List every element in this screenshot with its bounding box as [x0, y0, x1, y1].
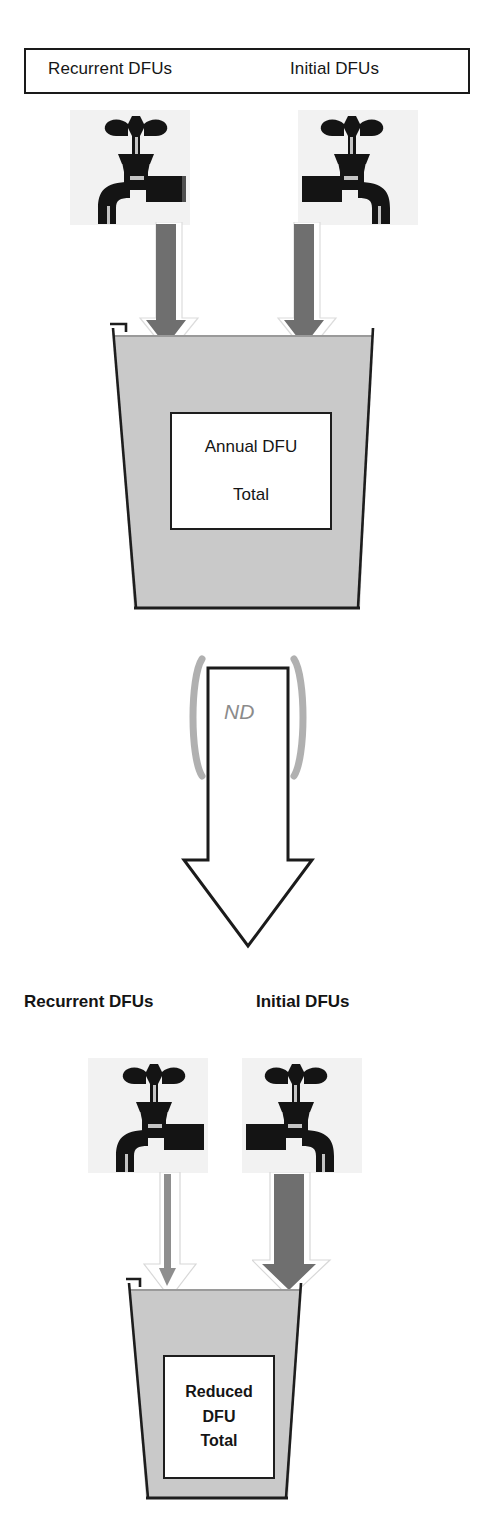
- reduced-dfu-caption-line2: DFU: [203, 1409, 236, 1426]
- nd-label: ND: [224, 700, 254, 724]
- annual-dfu-caption-line1: Annual DFU: [205, 438, 298, 456]
- annual-dfu-total-box: Annual DFU Total: [170, 412, 332, 530]
- bottom-left-flow-arrow-icon: [140, 1172, 210, 1302]
- reduced-dfu-total-box: Reduced DFU Total: [163, 1355, 275, 1479]
- top-label-box: Recurrent DFUs Initial DFUs: [24, 48, 470, 94]
- reduced-dfu-caption-line1: Reduced: [185, 1384, 253, 1401]
- left-bracket-icon: [180, 655, 208, 780]
- top-right-flow-arrow-icon: [268, 222, 358, 362]
- bottom-label-recurrent-dfus: Recurrent DFUs: [24, 992, 153, 1012]
- diagram-canvas: Recurrent DFUs Initial DFUs: [0, 0, 495, 1515]
- top-left-faucet-icon: [70, 110, 190, 225]
- bottom-right-flow-arrow-icon: [252, 1172, 342, 1302]
- top-left-flow-arrow-icon: [130, 222, 220, 362]
- top-label-initial-dfus: Initial DFUs: [290, 59, 379, 79]
- bottom-left-faucet-icon: [88, 1058, 208, 1173]
- right-bracket-icon: [288, 655, 316, 780]
- bottom-label-initial-dfus: Initial DFUs: [256, 992, 350, 1012]
- annual-dfu-caption-line2: Total: [233, 486, 269, 504]
- bottom-right-faucet-icon: [242, 1058, 362, 1173]
- top-right-faucet-icon: [298, 110, 418, 225]
- reduced-dfu-caption-line3: Total: [200, 1433, 237, 1450]
- top-label-recurrent-dfus: Recurrent DFUs: [48, 59, 172, 79]
